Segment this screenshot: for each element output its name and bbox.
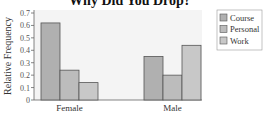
bar-female-work	[79, 83, 98, 100]
bar-male-work	[182, 45, 201, 100]
x-axis-categories: FemaleMale	[56, 103, 182, 113]
legend-swatch	[220, 14, 227, 21]
legend-label: Course	[230, 13, 254, 23]
y-tick-label: 0.4	[20, 46, 30, 55]
y-tick-label: 0.1	[20, 84, 30, 93]
y-axis-label: Relative Frequency	[2, 17, 13, 95]
legend-label: Personal	[230, 24, 260, 34]
bar-male-course	[144, 57, 163, 101]
y-tick-label: 0	[26, 96, 30, 105]
legend: CoursePersonalWork	[217, 10, 262, 50]
x-category-label: Male	[163, 103, 182, 113]
bar-male-personal	[163, 75, 182, 100]
legend-swatch	[220, 26, 227, 33]
legend-swatch	[220, 37, 227, 44]
bar-female-course	[41, 23, 60, 100]
y-tick-label: 0.5	[20, 34, 30, 43]
bar-female-personal	[60, 70, 79, 100]
x-category-label: Female	[56, 103, 83, 113]
chart-title: Why Did You Drop?	[69, 0, 191, 8]
y-tick-label: 0.6	[20, 21, 30, 30]
y-tick-label: 0.3	[20, 59, 30, 68]
y-tick-label: 0.7	[20, 9, 30, 18]
legend-label: Work	[230, 36, 249, 46]
bar-chart: Why Did You Drop? 00.10.20.30.40.50.60.7…	[0, 0, 263, 113]
y-tick-label: 0.2	[20, 71, 30, 80]
